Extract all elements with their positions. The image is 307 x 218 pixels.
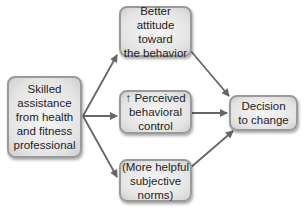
arrow-norms-to-decision [190,131,233,168]
arrow-source-to-attitude [83,55,117,116]
node-skilled-assistance: Skilled assistance from health and fitne… [7,76,82,158]
node-subjective-norms: (More helpful subjective norms) [119,159,192,202]
arrow-source-to-norms [83,116,117,177]
node-better-attitude: Better attitude toward the behavior [119,6,192,57]
arrow-attitude-to-decision [190,50,229,96]
node-perceived-control: ↑ Perceived behavioral control [119,90,192,134]
node-decision-to-change: Decision to change [229,95,298,131]
